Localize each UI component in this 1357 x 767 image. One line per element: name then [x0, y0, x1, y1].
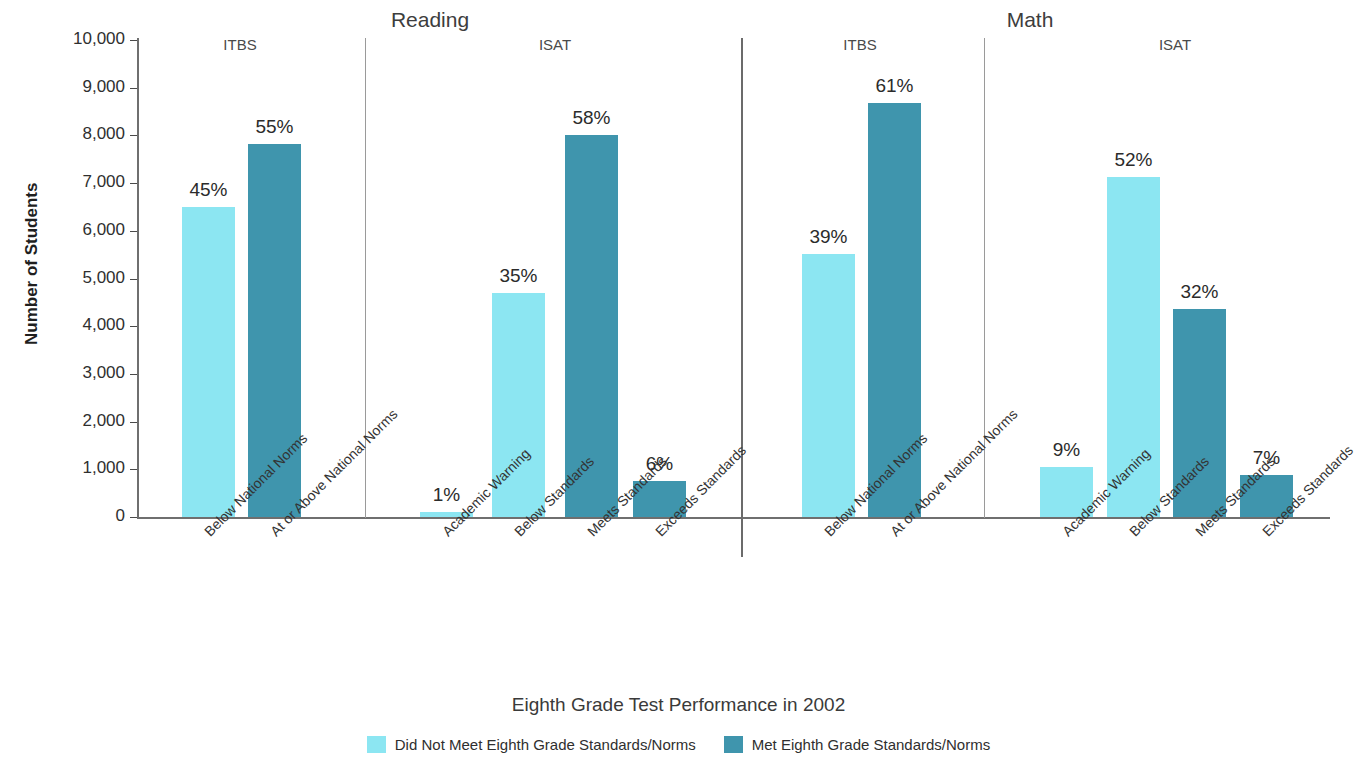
y-tick-label: 7,000 — [25, 172, 125, 192]
y-tick-label: 5,000 — [25, 268, 125, 288]
test-title-math-isat: ISAT — [1115, 36, 1235, 53]
y-tick-label: 6,000 — [25, 220, 125, 240]
y-tick-label: 1,000 — [25, 458, 125, 478]
y-tick-label: 4,000 — [25, 315, 125, 335]
legend-item-met: Met Eighth Grade Standards/Norms — [724, 736, 990, 753]
group-title-math: Math — [930, 8, 1130, 32]
bar-value-label: 55% — [215, 116, 335, 138]
legend-item-did-not-meet: Did Not Meet Eighth Grade Standards/Norm… — [367, 736, 696, 753]
legend-label-met: Met Eighth Grade Standards/Norms — [752, 736, 990, 753]
y-tick-label: 9,000 — [25, 77, 125, 97]
bar-value-label: 32% — [1140, 281, 1260, 303]
bar-value-label: 35% — [459, 265, 579, 287]
y-axis-line — [137, 38, 139, 518]
y-tick-label: 2,000 — [25, 411, 125, 431]
bar — [802, 254, 855, 517]
y-tick-label: 0 — [25, 506, 125, 526]
divider-reading-math — [741, 38, 743, 557]
bar-value-label: 58% — [532, 107, 652, 129]
test-title-math-itbs: ITBS — [800, 36, 920, 53]
legend-swatch-dark — [724, 736, 743, 753]
x-axis-title: Eighth Grade Test Performance in 2002 — [0, 694, 1357, 716]
legend-swatch-light — [367, 736, 386, 753]
y-tick-label: 8,000 — [25, 124, 125, 144]
test-title-reading-isat: ISAT — [495, 36, 615, 53]
chart-legend: Did Not Meet Eighth Grade Standards/Norm… — [0, 736, 1357, 753]
y-tick-label: 3,000 — [25, 363, 125, 383]
bar-value-label: 61% — [835, 75, 955, 97]
legend-label-did-not-meet: Did Not Meet Eighth Grade Standards/Norm… — [395, 736, 696, 753]
bar-value-label: 52% — [1074, 149, 1194, 171]
y-tick-label: 10,000 — [25, 29, 125, 49]
group-title-reading: Reading — [330, 8, 530, 32]
bar — [182, 207, 235, 517]
test-title-reading-itbs: ITBS — [180, 36, 300, 53]
chart-canvas: Reading Math ITBS ISAT ITBS ISAT Number … — [0, 0, 1357, 767]
